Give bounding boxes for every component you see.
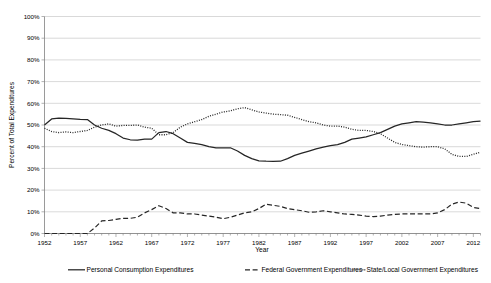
x-axis-tick-label: 1962 [109,239,123,246]
x-axis-tick-label: 1987 [288,239,302,246]
y-axis-tick-label: 30% [27,165,40,172]
x-axis-tick-labels: 1952195719621967197219771982198719921997… [38,239,481,246]
x-axis-tick-label: 1982 [252,239,266,246]
axes [42,17,481,238]
y-axis-tick-label: 0% [31,230,40,237]
y-axis-tick-label: 50% [27,121,40,128]
y-axis-tick-label: 60% [27,100,40,107]
x-axis-tick-label: 2012 [466,239,480,246]
series-line-dotted [45,108,481,157]
x-axis-tick-label: 1977 [216,239,230,246]
legend-label: Personal Consumption Expenditures [87,266,195,274]
axis-titles: Percent of Total Expenditures Year [8,81,269,253]
x-axis-tick-label: 1957 [73,239,87,246]
legend-label: Federal Government Expenditures [262,266,363,274]
y-axis-tick-label: 10% [27,208,40,215]
x-axis-title: Year [255,246,269,253]
y-axis-tick-label: 80% [27,56,40,63]
data-series [45,108,481,234]
legend-label: State/Local Government Expenditures [367,266,479,274]
x-axis-tick-label: 1972 [181,239,195,246]
chart-container: 0%10%20%30%40%50%60%70%80%90%100% 195219… [0,0,491,283]
y-axis-title: Percent of Total Expenditures [8,81,16,168]
expenditure-share-line-chart: 0%10%20%30%40%50%60%70%80%90%100% 195219… [0,0,491,283]
x-axis-tick-label: 2002 [395,239,409,246]
x-axis-tick-label: 2007 [431,239,445,246]
x-axis-tick-label: 1992 [324,239,338,246]
y-axis-tick-label: 70% [27,78,40,85]
x-axis-tick-label: 1952 [38,239,52,246]
y-axis-tick-label: 90% [27,34,40,41]
x-axis-tick-label: 1997 [359,239,373,246]
chart-legend: Personal Consumption ExpendituresFederal… [68,266,479,274]
y-axis-tick-label: 100% [24,13,40,20]
y-axis-tick-labels: 0%10%20%30%40%50%60%70%80%90%100% [24,13,40,237]
series-line-dashed [45,202,481,233]
x-axis-tick-label: 1967 [145,239,159,246]
gridlines [45,17,481,234]
y-axis-tick-label: 40% [27,143,40,150]
y-axis-tick-label: 20% [27,186,40,193]
